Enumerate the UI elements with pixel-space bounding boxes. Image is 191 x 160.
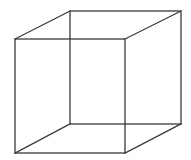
edge-bottom-right bbox=[125, 124, 181, 153]
necker-cube-diagram bbox=[0, 0, 191, 160]
edge-top-right bbox=[125, 11, 181, 39]
edge-top-left bbox=[15, 11, 70, 39]
connecting-edges bbox=[15, 11, 181, 153]
edge-bottom-left bbox=[15, 124, 70, 153]
